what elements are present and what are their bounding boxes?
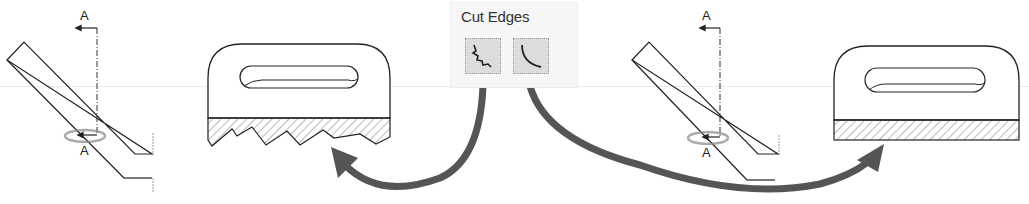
- jagged-section-result: [208, 44, 390, 146]
- smooth-edge-button[interactable]: [513, 38, 549, 74]
- left-section-source-view: A A: [7, 8, 153, 193]
- highlight-ellipse: [65, 130, 105, 142]
- jagged-break-icon: [466, 39, 500, 73]
- section-label-bottom: A: [80, 143, 89, 158]
- smooth-section-result: [834, 46, 1019, 140]
- right-section-source-view: A A: [632, 8, 779, 180]
- section-label-top: A: [702, 8, 711, 23]
- panel-title: Cut Edges: [461, 8, 529, 25]
- smooth-curve-icon: [514, 39, 548, 73]
- section-label-bottom: A: [702, 145, 711, 160]
- jagged-edge-button[interactable]: [465, 38, 501, 74]
- section-label-top: A: [80, 8, 89, 23]
- highlight-ellipse: [688, 132, 728, 144]
- cut-edges-panel: Cut Edges: [450, 2, 578, 88]
